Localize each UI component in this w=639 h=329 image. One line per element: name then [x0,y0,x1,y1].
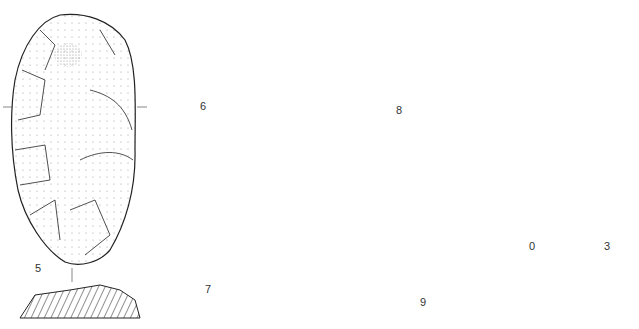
scale-bar-start-label: 0 [529,240,535,252]
plate-drawing [0,0,639,329]
scale-bar-end-label: 3 [604,240,610,252]
label-artifact-6: 6 [200,100,206,112]
label-artifact-8: 8 [396,104,402,116]
label-artifact-5: 5 [35,262,41,274]
lithic-plate: 5 6 7 8 9 0 3 [0,0,639,329]
label-artifact-9: 9 [420,296,426,308]
artifact-5 [3,14,147,318]
label-artifact-7: 7 [205,283,211,295]
